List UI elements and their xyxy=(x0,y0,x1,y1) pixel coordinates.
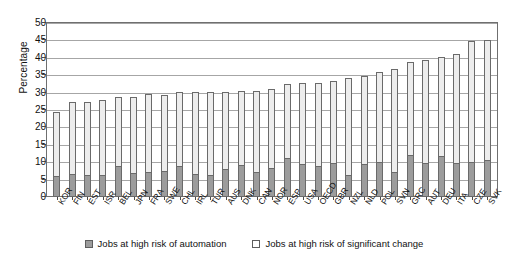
x-tick-AUS: AUS xyxy=(218,198,233,232)
x-tick-BEL: BEL xyxy=(111,198,126,232)
bar-stack xyxy=(484,40,491,197)
bar-group xyxy=(264,23,279,197)
x-tick-SVN: SVN xyxy=(387,198,402,232)
bar-group xyxy=(218,23,233,197)
bar-stack xyxy=(84,102,91,197)
bar-group xyxy=(280,23,295,197)
x-tick-AUT: AUT xyxy=(418,198,433,232)
bar-group xyxy=(95,23,110,197)
x-tick-EST: EST xyxy=(80,198,95,232)
bar-group xyxy=(249,23,264,197)
bar-segment-significant-change xyxy=(115,97,122,166)
y-tick-label-20: 20 xyxy=(6,121,46,132)
x-tick-SWE: SWE xyxy=(157,198,172,232)
y-tick-label-40: 40 xyxy=(6,51,46,62)
bar-group xyxy=(310,23,325,197)
x-tick-CAN: CAN xyxy=(249,198,264,232)
legend-label-significant-change: Jobs at high risk of significant change xyxy=(265,238,423,249)
bar-stack xyxy=(176,92,183,197)
bar-group xyxy=(387,23,402,197)
bar-stack xyxy=(299,83,306,197)
bar-segment-significant-change xyxy=(99,100,106,175)
legend-swatch-automation xyxy=(85,240,93,248)
bar-group xyxy=(141,23,156,197)
legend-swatch-significant-change xyxy=(252,240,260,248)
bar-segment-significant-change xyxy=(176,92,183,165)
bar-stack xyxy=(253,91,260,197)
x-tick-GBR: GBR xyxy=(326,198,341,232)
bar-group xyxy=(187,23,202,197)
bar-stack xyxy=(268,89,275,197)
x-tick-NLD: NLD xyxy=(357,198,372,232)
bar-stack xyxy=(69,102,76,197)
chart-container: Percentage 05101520253035404550 KORFINES… xyxy=(0,0,508,261)
x-tick-SVK: SVK xyxy=(480,198,495,232)
bar-stack xyxy=(422,60,429,197)
bar-segment-significant-change xyxy=(315,83,322,166)
bar-segment-significant-change xyxy=(84,102,91,175)
bar-segment-significant-change xyxy=(299,83,306,163)
bar-stack xyxy=(330,81,337,197)
y-tick-label-15: 15 xyxy=(6,138,46,149)
bar-segment-automation xyxy=(468,162,475,197)
bar-segment-significant-change xyxy=(53,112,60,176)
x-tick-OECD: OECD xyxy=(310,198,325,232)
x-tick-FRA: FRA xyxy=(141,198,156,232)
x-tick-ESP: ESP xyxy=(280,198,295,232)
x-axis: KORFINESTISRBELJPNFRASWECHLIRLTURAUSDNKC… xyxy=(47,198,497,232)
y-tick-label-10: 10 xyxy=(6,156,46,167)
bar-group xyxy=(341,23,356,197)
bar-segment-significant-change xyxy=(376,72,383,162)
bar-series-group xyxy=(47,23,497,197)
x-tick-NZL: NZL xyxy=(341,198,356,232)
bar-stack xyxy=(207,92,214,197)
x-tick-NOR: NOR xyxy=(264,198,279,232)
bar-segment-significant-change xyxy=(453,54,460,163)
bar-segment-significant-change xyxy=(391,69,398,172)
x-tick-TUR: TUR xyxy=(203,198,218,232)
bar-segment-significant-change xyxy=(468,41,475,162)
bar-group xyxy=(64,23,79,197)
y-tick-label-0: 0 xyxy=(6,191,46,202)
x-tick-POL: POL xyxy=(372,198,387,232)
bar-segment-significant-change xyxy=(361,76,368,164)
bar-stack xyxy=(438,57,445,197)
bar-stack xyxy=(192,92,199,197)
bar-group xyxy=(203,23,218,197)
bar-segment-significant-change xyxy=(345,78,352,175)
bar-segment-significant-change xyxy=(407,62,414,155)
x-tick-IRL: IRL xyxy=(187,198,202,232)
legend-item-automation: Jobs at high risk of automation xyxy=(85,238,227,249)
chart-legend: Jobs at high risk of automation Jobs at … xyxy=(0,238,508,249)
y-tick-label-25: 25 xyxy=(6,104,46,115)
bar-group xyxy=(157,23,172,197)
bar-stack xyxy=(376,72,383,197)
y-axis: 05101520253035404550 xyxy=(0,22,46,197)
bar-segment-significant-change xyxy=(330,81,337,163)
bar-stack xyxy=(238,91,245,197)
bar-group xyxy=(480,23,495,197)
bar-stack xyxy=(222,92,229,197)
bar-group xyxy=(234,23,249,197)
bar-group xyxy=(433,23,448,197)
x-tick-DNK: DNK xyxy=(234,198,249,232)
bar-stack xyxy=(115,97,122,197)
x-tick-ITA: ITA xyxy=(449,198,464,232)
bar-stack xyxy=(453,54,460,197)
bar-segment-significant-change xyxy=(192,92,199,174)
bar-segment-significant-change xyxy=(438,57,445,156)
y-tick-label-30: 30 xyxy=(6,86,46,97)
bar-stack xyxy=(161,95,168,197)
bar-stack xyxy=(345,78,352,197)
legend-label-automation: Jobs at high risk of automation xyxy=(98,238,227,249)
x-tick-CZE: CZE xyxy=(464,198,479,232)
bar-stack xyxy=(407,62,414,197)
bar-group xyxy=(295,23,310,197)
bar-stack xyxy=(315,83,322,197)
y-tick-label-50: 50 xyxy=(6,17,46,28)
bar-stack xyxy=(130,97,137,197)
bar-stack xyxy=(145,94,152,197)
bar-stack xyxy=(99,100,106,197)
bar-segment-significant-change xyxy=(69,102,76,174)
bar-segment-significant-change xyxy=(222,92,229,169)
